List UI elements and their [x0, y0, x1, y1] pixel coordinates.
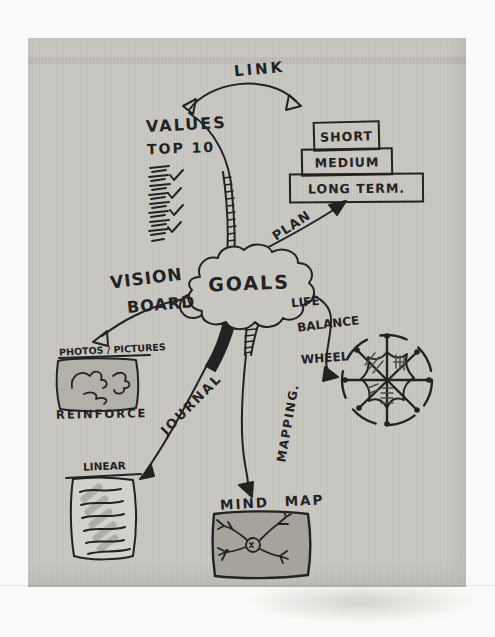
paper-shadow: [248, 587, 474, 623]
term-label-medium: MEDIUM: [315, 154, 380, 170]
linear-caption: LINEAR: [83, 459, 126, 472]
term-box-long-term: LONG TERM.: [289, 172, 424, 203]
reinforce-label: REINFORCE: [56, 406, 148, 422]
goals-label: GOALS: [207, 271, 292, 296]
term-label-short: SHORT: [320, 128, 373, 144]
paper-bottom-edge: [0, 585, 495, 586]
life-label: LIFE: [290, 294, 320, 310]
photo-of-hand-drawn-goals-mind-map: LINK VALUES TOP 10 SHORT MEDIUM LONG TER…: [0, 0, 495, 637]
term-label-long-term: LONG TERM.: [308, 180, 405, 196]
values-subtitle: TOP 10: [147, 139, 216, 157]
